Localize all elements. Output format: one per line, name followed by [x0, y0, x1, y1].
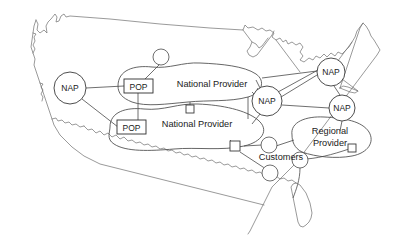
square-node-national-upper[interactable] [186, 105, 194, 113]
nap-central-label: NAP [258, 96, 276, 106]
nap-northeast[interactable]: NAP [317, 58, 345, 86]
national-provider-lower-label: National Provider [162, 119, 232, 129]
nap-west-label: NAP [61, 83, 79, 93]
network-map-svg: NAP NAP NAP NAP POP POP National Provide… [0, 0, 395, 239]
node-circle-nw[interactable] [153, 49, 169, 65]
nap-southeast-label: NAP [333, 103, 351, 113]
nap-west[interactable]: NAP [54, 72, 86, 104]
regional-provider-label-line1: Regional [312, 126, 348, 136]
diagram-canvas: NAP NAP NAP NAP POP POP National Provide… [0, 0, 395, 239]
square-node-customers[interactable] [230, 141, 240, 151]
pop-upper[interactable]: POP [124, 79, 153, 93]
node-circle-customer-b[interactable] [262, 165, 278, 181]
national-provider-upper-label: National Provider [177, 79, 247, 89]
pop-upper-label: POP [130, 82, 148, 92]
nap-southeast[interactable]: NAP [329, 95, 355, 121]
pop-lower[interactable]: POP [117, 120, 146, 134]
square-node-regional[interactable] [348, 144, 356, 152]
regional-provider-label-line2: Provider [313, 138, 347, 148]
nap-central[interactable]: NAP [252, 86, 282, 116]
pop-lower-label: POP [123, 123, 141, 133]
customers-label: Customers [259, 152, 304, 162]
node-circle-customer-a[interactable] [261, 137, 277, 153]
nap-northeast-label: NAP [322, 67, 340, 77]
